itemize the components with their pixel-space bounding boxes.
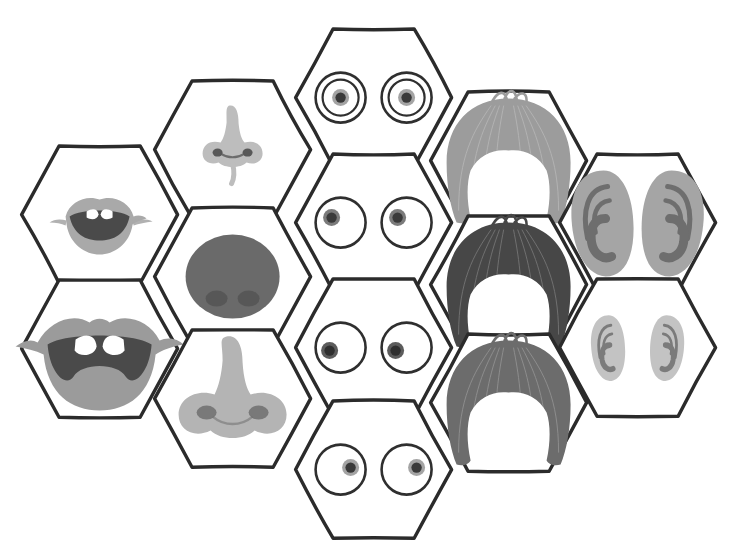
hex-outline-ears-small — [560, 279, 716, 417]
face-parts-canvas: Small mouth with teethWide open mouth wi… — [0, 0, 734, 549]
